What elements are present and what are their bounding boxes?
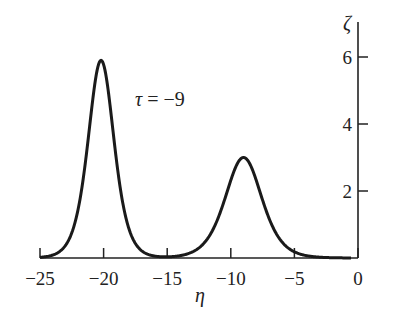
svg-text:6: 6: [343, 47, 353, 68]
svg-text:4: 4: [343, 114, 353, 135]
svg-text:−10: −10: [216, 268, 246, 289]
svg-text:−15: −15: [152, 268, 182, 289]
svg-text:−5: −5: [284, 268, 304, 289]
x-axis-label: η: [195, 284, 205, 307]
y-ticks: 246: [343, 47, 369, 202]
annotation-tau: τ = −9: [135, 88, 185, 110]
svg-text:0: 0: [353, 268, 363, 289]
svg-text:−25: −25: [25, 268, 55, 289]
chart: −25−20−15−10−50 246 τ = −9 η ζ: [0, 0, 397, 330]
y-axis-label: ζ: [343, 12, 353, 35]
x-ticks: −25−20−15−10−50: [25, 248, 363, 289]
soliton-curve: [40, 60, 351, 258]
svg-text:2: 2: [343, 181, 353, 202]
svg-text:−20: −20: [89, 268, 119, 289]
